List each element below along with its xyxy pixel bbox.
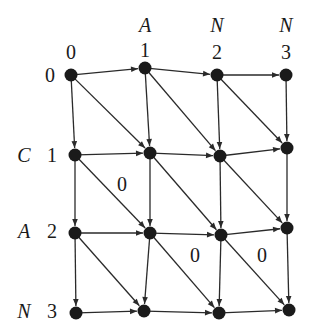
vertical-edge-arrow xyxy=(219,237,221,306)
horizontal-edge-arrow xyxy=(222,149,280,156)
vertical-edge-arrow xyxy=(220,158,221,228)
column-letter-1: A xyxy=(137,14,152,36)
horizontal-edge-arrow xyxy=(152,233,214,235)
grid-node-0-2 xyxy=(211,69,224,82)
grid-node-3-0 xyxy=(70,307,83,320)
vertical-edge-arrow xyxy=(145,70,149,146)
diagonal-edge-arrow xyxy=(76,234,139,305)
diagonal-edge-arrow xyxy=(218,76,282,143)
grid-node-3-1 xyxy=(138,305,151,318)
diagonal-edge-arrow xyxy=(151,155,216,230)
grid-node-2-1 xyxy=(144,227,157,240)
column-index-2: 2 xyxy=(212,41,222,63)
row-index-0: 0 xyxy=(45,64,55,86)
column-letter-2: N xyxy=(209,14,225,36)
horizontal-edge-arrow xyxy=(152,153,213,156)
grid-node-2-0 xyxy=(69,227,82,240)
diagonal-edge-arrow xyxy=(222,236,284,304)
grid-node-2-3 xyxy=(281,222,294,235)
grid-node-0-1 xyxy=(139,62,152,75)
vertical-edge-arrow xyxy=(75,235,76,306)
grid-node-3-2 xyxy=(213,307,226,320)
column-letter-3: N xyxy=(278,14,294,36)
edges-layer xyxy=(71,68,289,313)
vertical-edge-arrow xyxy=(217,77,220,149)
row-letter-1: C xyxy=(17,144,31,166)
horizontal-edge-arrow xyxy=(147,68,210,74)
horizontal-edge-arrow xyxy=(77,153,143,155)
diagonal-edge-arrow xyxy=(221,157,282,222)
grid-node-1-1 xyxy=(144,147,157,160)
grid-node-3-3 xyxy=(283,304,296,317)
column-index-3: 3 xyxy=(281,41,291,63)
horizontal-edge-arrow xyxy=(223,229,280,235)
edge-weight-label: 0 xyxy=(117,173,127,195)
vertical-edge-arrow xyxy=(71,77,75,148)
horizontal-edge-arrow xyxy=(78,311,137,313)
diagonal-edge-arrow xyxy=(72,76,145,148)
grid-node-0-3 xyxy=(280,69,293,82)
horizontal-edge-arrow xyxy=(146,311,212,313)
diagonal-edge-arrow xyxy=(76,156,145,228)
grid-node-1-3 xyxy=(281,142,294,155)
alignment-grid-diagram: A N N 0 1 2 3 C A N 0 1 2 3 0 0 0 xyxy=(0,0,310,329)
row-index-3: 3 xyxy=(47,300,57,322)
column-index-1: 1 xyxy=(140,39,150,61)
column-index-0: 0 xyxy=(66,41,76,63)
diagonal-edge-arrow xyxy=(151,235,214,308)
vertical-edge-arrow xyxy=(287,230,289,303)
vertical-edge-arrow xyxy=(145,235,150,304)
horizontal-edge-arrow xyxy=(73,69,138,75)
grid-node-1-0 xyxy=(69,149,82,162)
edge-weight-label: 0 xyxy=(257,244,267,266)
row-letter-2: A xyxy=(16,220,31,242)
grid-node-0-0 xyxy=(65,69,78,82)
grid-node-2-2 xyxy=(215,229,228,242)
vertical-edge-arrow xyxy=(286,77,287,141)
diagonal-edge-arrow xyxy=(146,70,215,151)
grid-node-1-2 xyxy=(214,150,227,163)
row-letter-3: N xyxy=(16,300,32,322)
edge-weight-label: 0 xyxy=(190,244,200,266)
horizontal-edge-arrow xyxy=(221,310,282,313)
row-index-2: 2 xyxy=(47,220,57,242)
nodes-layer xyxy=(65,62,296,320)
row-index-1: 1 xyxy=(47,144,57,166)
